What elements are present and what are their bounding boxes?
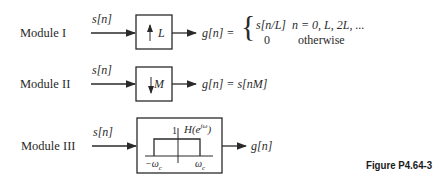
- module-1-output-lhs: g[n] =: [202, 26, 234, 41]
- case-1-cond: n = 0, L, 2L, ...: [292, 18, 364, 33]
- module-2-output: g[n] = s[nM]: [202, 77, 267, 92]
- module-1-input: s[n]: [92, 12, 112, 27]
- module-2-input: s[n]: [92, 63, 112, 78]
- case-2-expr: 0: [264, 33, 270, 48]
- filter-title: H(ejω): [184, 122, 211, 135]
- module-3-output: g[n]: [251, 139, 272, 154]
- module-3-input: s[n]: [93, 125, 113, 140]
- upsampler-box: [136, 15, 172, 49]
- module-2-factor: M: [154, 77, 164, 92]
- module-2-label: Module II: [20, 77, 70, 92]
- filter-left-cutoff: −ωc: [145, 158, 162, 172]
- figure-caption: Figure P4.64-3: [366, 159, 432, 171]
- filter-gain: 1: [172, 125, 177, 136]
- case-2-cond: otherwise: [298, 33, 345, 48]
- lowpass-response: [154, 139, 200, 156]
- module-1-label: Module I: [20, 26, 66, 41]
- filter-right-cutoff: ωc: [195, 158, 205, 172]
- cases-brace: {: [241, 11, 255, 41]
- case-1-expr: s[n/L]: [256, 18, 286, 33]
- module-1-factor: L: [158, 26, 165, 41]
- module-3-label: Module III: [21, 139, 76, 154]
